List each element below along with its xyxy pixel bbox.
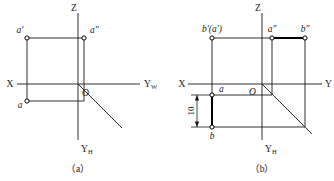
panel-b-label-b-plain: b	[210, 131, 215, 141]
panel-b-yh-axis-label: Y	[265, 144, 272, 154]
panel-a-label-a-plain: a	[18, 100, 23, 110]
panel-b-dimension-arrow-top	[195, 95, 199, 101]
panel-b-point-a-double-prime-marker	[270, 36, 274, 40]
panel-b-origin-label: O	[249, 87, 256, 97]
panel-a-caption: （a）	[66, 163, 90, 174]
panel-b-label-b-prime-a-prime: b′(a′)	[202, 24, 222, 35]
projection-figure: Z X Y W Y H O a′ a″ a （a）	[0, 0, 334, 181]
panel-a-yw-axis-label: Y	[144, 79, 151, 89]
panel-b-bisector-line	[262, 84, 312, 134]
panel-b-point-b-double-prime-marker	[303, 36, 307, 40]
panel-b-yh-axis-subscript: H	[272, 148, 277, 155]
panel-a-yh-axis-subscript: H	[88, 148, 93, 155]
panel-b-label-a-plain: a	[219, 84, 224, 94]
panel-a-x-axis-label: X	[7, 79, 14, 89]
panel-b-y-axis-label: Y	[325, 79, 332, 89]
panel-a-point-a-double-prime-marker	[82, 36, 86, 40]
panel-b-dimension-value: 10	[186, 106, 196, 116]
panel-a-label-a-prime: a′	[17, 25, 25, 35]
panel-a-yh-axis-label: Y	[81, 144, 88, 154]
panel-b-point-b-plain-marker	[210, 125, 214, 129]
figure-canvas: Z X Y W Y H O a′ a″ a （a）	[0, 0, 334, 181]
panel-b-label-a-double-prime: a″	[268, 24, 278, 34]
panel-a: Z X Y W Y H O a′ a″ a （a）	[7, 3, 158, 174]
panel-a-point-a-prime-marker	[25, 36, 29, 40]
panel-b-x-axis-label: X	[179, 79, 186, 89]
panel-b-point-a-plain-marker	[210, 93, 214, 97]
panel-b-dimension-arrow-bottom	[195, 122, 199, 128]
panel-a-yw-axis-subscript: W	[151, 83, 158, 90]
panel-b-z-axis-label: Z	[255, 3, 261, 13]
panel-a-origin-label: O	[82, 88, 89, 98]
panel-b: 10 Z X Y Y H O b′(a′) a″ b″ a b （b）	[179, 3, 332, 174]
panel-a-label-a-double-prime: a″	[90, 25, 100, 35]
panel-a-point-a-plain-marker	[25, 99, 29, 103]
panel-b-caption: （b）	[250, 163, 275, 174]
panel-b-point-b-prime-a-prime-marker	[210, 36, 214, 40]
panel-b-label-b-double-prime: b″	[301, 24, 311, 34]
panel-a-z-axis-label: Z	[71, 3, 77, 13]
